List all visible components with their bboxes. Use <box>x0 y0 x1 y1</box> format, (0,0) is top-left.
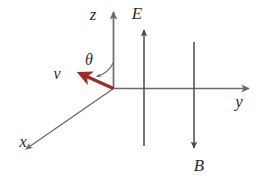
physics-figure: z y x v E B θ <box>0 0 265 191</box>
axis-label-z: z <box>89 5 97 24</box>
vector-label-electric-field: E <box>131 4 143 23</box>
vector-label-velocity: v <box>53 65 61 82</box>
angle-label-theta: θ <box>85 51 93 68</box>
axis-line-x <box>26 89 114 150</box>
angle-arc-theta <box>97 63 114 77</box>
axis-label-y: y <box>233 92 243 111</box>
figure-canvas: z y x v E B θ <box>0 0 265 191</box>
axis-label-x: x <box>18 132 27 151</box>
vector-label-magnetic-field: B <box>194 156 205 175</box>
vector-line-velocity <box>80 74 114 89</box>
